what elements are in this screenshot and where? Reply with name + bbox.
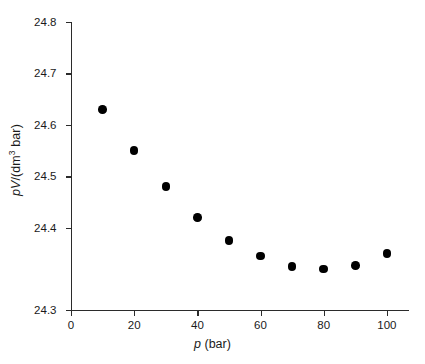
y-axis-label-container: pV/(dm3 bar): [0, 0, 30, 320]
y-axis-tick: 24.7: [66, 73, 72, 74]
x-axis-tick-label: 60: [254, 319, 267, 331]
x-axis-tick-label: 100: [377, 319, 396, 331]
x-axis-label-symbol: p: [194, 337, 201, 351]
y-axis-tick: 24.5: [66, 176, 72, 177]
x-axis-tick: [134, 310, 135, 316]
x-axis-tick: [71, 310, 72, 316]
y-axis-tick-label: 24.6: [34, 119, 56, 131]
y-axis-label-units: /(dm: [9, 155, 23, 180]
y-axis-tick-label: 24.7: [34, 67, 56, 79]
y-axis-tick-label: 24.8: [34, 16, 56, 28]
scatter-chart-figure: pV/(dm3 bar) 24.8 24.7 24.6 24.5 24.4 24…: [0, 0, 425, 364]
x-axis-tick: [387, 310, 388, 316]
y-axis-tick: 24.6: [66, 125, 72, 126]
x-axis-line: [71, 310, 409, 311]
data-point: [130, 146, 139, 155]
y-axis-tick: 24.8: [66, 22, 72, 23]
data-point: [193, 213, 202, 222]
x-axis-tick-label: 0: [68, 319, 74, 331]
y-axis-label-exponent: 3: [7, 150, 17, 155]
data-point: [383, 249, 392, 258]
data-point: [256, 252, 265, 261]
y-axis-label-symbol: pV: [9, 180, 23, 196]
data-point: [288, 262, 297, 271]
x-axis-label: p (bar): [0, 337, 425, 351]
x-axis-tick: [261, 310, 262, 316]
x-axis-tick-label: 80: [317, 319, 330, 331]
y-axis-tick-label: 24.4: [34, 222, 56, 234]
data-point: [351, 261, 360, 270]
x-axis-label-units: (bar): [201, 337, 231, 351]
y-axis-label: pV/(dm3 bar): [7, 124, 23, 196]
y-axis-line: [71, 22, 72, 310]
x-axis-tick-label: 20: [128, 319, 141, 331]
data-point: [319, 265, 328, 274]
x-axis-tick: [197, 310, 198, 316]
x-axis-tick: [324, 310, 325, 316]
plot-area: 24.8 24.7 24.6 24.5 24.4 24.3 0 20 40 60…: [71, 22, 409, 310]
data-point: [225, 236, 234, 245]
y-axis-tick-label: 24.5: [34, 170, 56, 182]
y-axis-label-units-tail: bar): [9, 124, 23, 150]
data-point: [162, 182, 171, 191]
y-axis-tick-label: 24.3: [34, 304, 56, 316]
y-axis-tick: 24.4: [66, 228, 72, 229]
x-axis-tick-label: 40: [191, 319, 204, 331]
data-point: [98, 105, 107, 114]
